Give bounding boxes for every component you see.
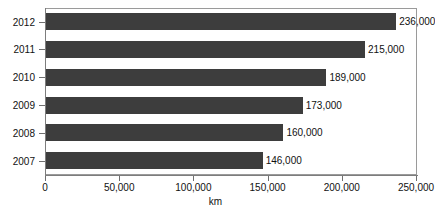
y-axis-label-2007: 2007: [0, 155, 35, 166]
bar-row: 236,000: [46, 8, 417, 36]
y-axis-tick: [39, 105, 45, 106]
bar-2012[interactable]: [46, 13, 396, 30]
bar-value-label: 173,000: [303, 97, 342, 114]
x-axis-tick-label: 0: [42, 182, 48, 193]
y-axis-tick: [39, 161, 45, 162]
y-axis-tick: [39, 49, 45, 50]
y-axis-tick: [39, 133, 45, 134]
bar-row: 146,000: [46, 147, 417, 175]
x-axis-tick-label: 100,000: [175, 182, 211, 193]
bar-2011[interactable]: [46, 41, 365, 58]
x-axis-tick: [119, 176, 120, 181]
bars-container: 236,000215,000189,000173,000160,000146,0…: [46, 8, 417, 175]
bar-value-label: 236,000: [396, 13, 435, 30]
x-axis-line: [45, 175, 418, 176]
bar-row: 215,000: [46, 36, 417, 64]
bar-value-label: 189,000: [326, 69, 365, 86]
bar-value-label: 160,000: [283, 124, 322, 141]
bar-2010[interactable]: [46, 69, 326, 86]
y-axis-label-2011: 2011: [0, 44, 35, 55]
bar-row: 160,000: [46, 119, 417, 147]
x-axis-tick: [342, 176, 343, 181]
y-axis-tick: [39, 22, 45, 23]
x-axis-tick-label: 50,000: [104, 182, 135, 193]
bar-2007[interactable]: [46, 152, 263, 169]
y-axis-label-2009: 2009: [0, 100, 35, 111]
y-axis-label-2008: 2008: [0, 127, 35, 138]
x-axis-title: km: [0, 196, 431, 207]
bar-value-label: 215,000: [365, 41, 404, 58]
bar-row: 189,000: [46, 64, 417, 92]
y-axis-label-2012: 2012: [0, 16, 35, 27]
y-axis-label-2010: 2010: [0, 72, 35, 83]
x-axis-tick: [416, 176, 417, 181]
x-axis-tick: [268, 176, 269, 181]
bar-value-label: 146,000: [263, 152, 302, 169]
bar-row: 173,000: [46, 92, 417, 120]
bar-2008[interactable]: [46, 124, 283, 141]
x-axis-tick-label: 250,000: [398, 182, 434, 193]
x-axis-tick-label: 150,000: [250, 182, 286, 193]
x-axis-tick-label: 200,000: [324, 182, 360, 193]
y-axis-tick: [39, 77, 45, 78]
x-axis-tick: [45, 176, 46, 181]
bar-2009[interactable]: [46, 97, 303, 114]
x-axis-tick: [193, 176, 194, 181]
